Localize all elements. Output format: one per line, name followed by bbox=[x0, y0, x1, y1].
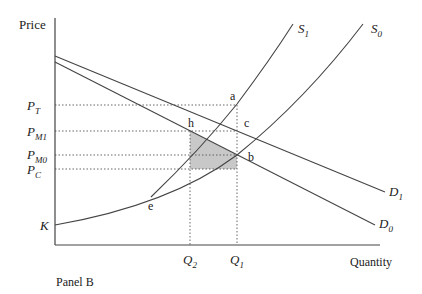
demand-curve-d0 bbox=[55, 62, 375, 225]
curve-label-s0: S0 bbox=[371, 21, 383, 39]
point-label-c: c bbox=[244, 116, 249, 130]
quantity-label-q2: Q2 bbox=[183, 252, 197, 270]
x-axis-label: Quantity bbox=[350, 255, 392, 269]
point-label-e: e bbox=[148, 199, 153, 213]
price-label-pm1: PM1 bbox=[26, 124, 47, 142]
panel-caption: Panel B bbox=[56, 275, 94, 289]
point-label-a: a bbox=[230, 89, 236, 103]
y-axis-label: Price bbox=[19, 17, 46, 32]
supply-curve-s1 bbox=[151, 24, 293, 197]
curve-label-d0: D0 bbox=[378, 216, 393, 234]
point-label-h: h bbox=[188, 116, 194, 130]
price-label-pt: PT bbox=[26, 98, 41, 116]
curve-label-s1: S1 bbox=[298, 21, 309, 39]
supply-demand-diagram: Price Quantity PT PM1 PM0 PC K Q2 Q1 S1 … bbox=[0, 0, 422, 294]
label-k: K bbox=[39, 218, 50, 233]
curve-label-d1: D1 bbox=[388, 184, 403, 202]
dotted-guides bbox=[55, 105, 237, 245]
axes bbox=[55, 18, 380, 245]
quantity-label-q1: Q1 bbox=[230, 252, 244, 270]
point-label-b: b bbox=[248, 150, 254, 164]
